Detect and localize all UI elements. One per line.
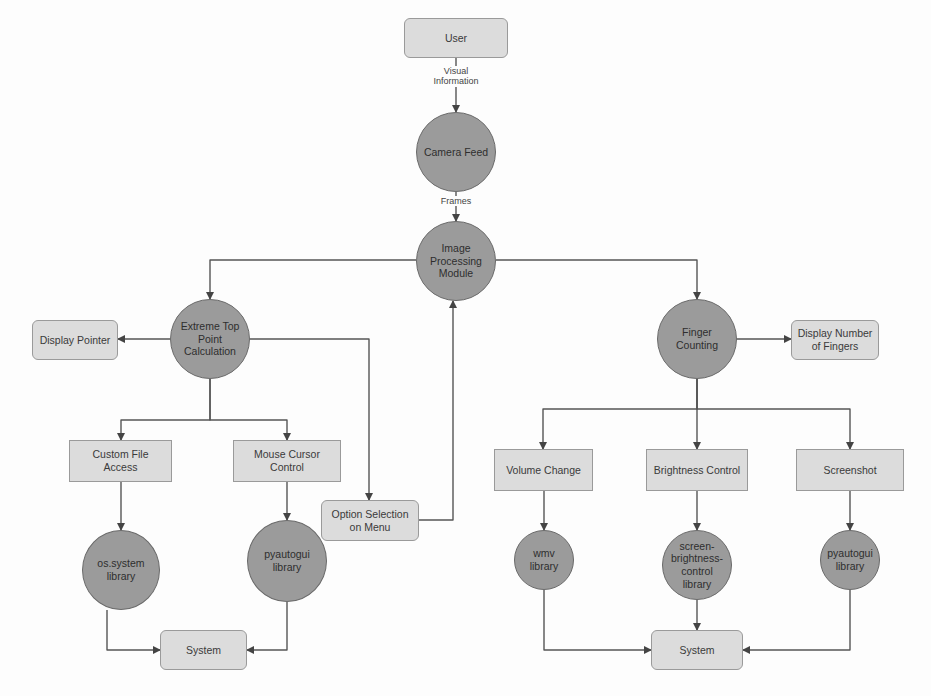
edge-os_system-to-system_left [107, 610, 160, 650]
edge-image_processing-to-extreme_top [210, 260, 416, 299]
node-label: Custom File Access [92, 448, 148, 473]
edge-wmv-to-system_right [544, 590, 651, 650]
node-option-selection: Option Selection on Menu [321, 500, 419, 541]
node-os-system: os.system library [82, 530, 160, 610]
flow-diagram: UserCamera FeedImage Processing ModuleEx… [0, 0, 931, 696]
node-camera-feed: Camera Feed [416, 112, 496, 192]
edge-finger_counting-to-screenshot [697, 379, 850, 449]
edge-option_selection-to-image_processing [419, 301, 453, 520]
node-image-processing: Image Processing Module [416, 221, 496, 301]
edge-extreme_top-to-mouse_cursor [210, 379, 287, 440]
node-label: Finger Counting [676, 326, 718, 351]
node-system-right: System [651, 630, 743, 670]
node-pyautogui-left: pyautogui library [247, 520, 327, 602]
node-label: Option Selection on Menu [331, 508, 408, 533]
node-label: User [445, 32, 467, 45]
node-user: User [404, 18, 508, 58]
node-label: Volume Change [506, 464, 581, 477]
edge-label: Frames [431, 196, 481, 206]
node-system-left: System [160, 630, 247, 670]
node-sbc: screen- brightness- control library [662, 530, 732, 600]
node-label: pyautogui library [827, 547, 873, 572]
node-finger-counting: Finger Counting [657, 299, 737, 379]
edge-extreme_top-to-custom_file [121, 379, 210, 440]
node-label: wmv library [530, 547, 559, 572]
node-label: Extreme Top Point Calculation [181, 320, 240, 358]
node-label: Image Processing Module [430, 242, 482, 280]
node-label: Mouse Cursor Control [254, 448, 320, 473]
node-wmv: wmv library [514, 530, 574, 590]
edge-label: Visual Information [426, 66, 486, 87]
node-label: System [679, 644, 714, 657]
node-custom-file: Custom File Access [69, 440, 172, 482]
node-screenshot: Screenshot [796, 449, 904, 491]
node-label: os.system library [97, 557, 144, 582]
edge-pyautogui_right-to-system_right [743, 590, 850, 650]
node-extreme-top: Extreme Top Point Calculation [170, 299, 250, 379]
edge-pyautogui_left-to-system_left [247, 602, 287, 650]
node-pyautogui-right: pyautogui library [820, 530, 880, 590]
node-label: Display Number of Fingers [798, 327, 873, 352]
node-label: Display Pointer [40, 334, 111, 347]
node-mouse-cursor: Mouse Cursor Control [233, 440, 341, 482]
node-brightness-control: Brightness Control [646, 449, 748, 491]
node-label: System [186, 644, 221, 657]
node-label: Screenshot [823, 464, 876, 477]
node-label: screen- brightness- control library [671, 540, 723, 590]
node-display-fingers: Display Number of Fingers [791, 320, 879, 360]
node-label: Camera Feed [424, 146, 488, 159]
edge-image_processing-to-finger_counting [496, 260, 697, 299]
edge-finger_counting-to-volume_change [543, 379, 697, 449]
node-label: Brightness Control [654, 464, 740, 477]
node-label: pyautogui library [264, 548, 310, 573]
node-display-pointer: Display Pointer [32, 320, 118, 360]
node-volume-change: Volume Change [494, 449, 593, 491]
